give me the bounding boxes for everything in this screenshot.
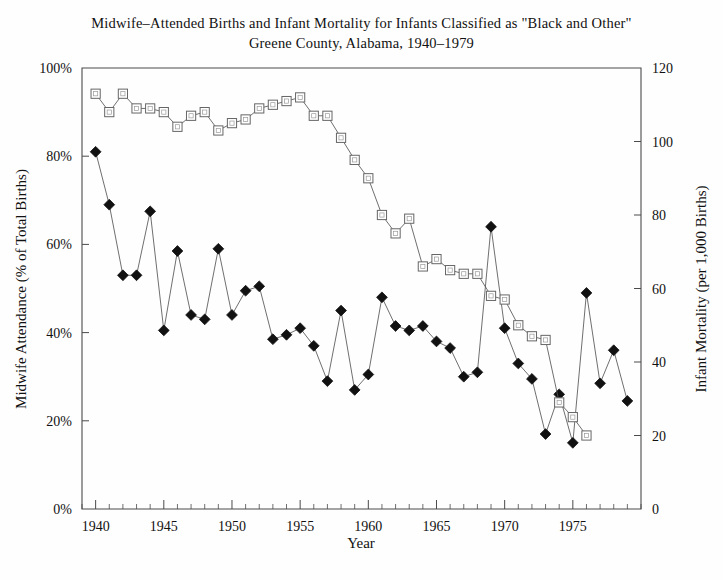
data-point-midwife: [172, 246, 183, 257]
y-right-tick-label: 40: [652, 355, 666, 370]
chart-plot-area: 0%20%40%60%80%100%0204060801001201940194…: [0, 0, 723, 580]
y-left-tick-label: 0%: [53, 502, 72, 517]
data-point-midwife: [199, 314, 210, 325]
data-point-midwife: [336, 305, 347, 316]
data-point-midwife: [227, 310, 238, 321]
data-point-midwife: [595, 378, 606, 389]
data-point-mortality: [377, 210, 386, 219]
chart-figure: Midwife–Attended Births and Infant Morta…: [0, 0, 723, 580]
plot-frame: [82, 68, 641, 509]
x-axis-tick-label: 1975: [559, 519, 587, 534]
data-point-midwife: [540, 429, 551, 440]
data-point-mortality: [350, 155, 359, 164]
data-point-mortality: [418, 262, 427, 271]
y-left-tick-label: 100%: [39, 61, 72, 76]
data-point-mortality: [405, 214, 414, 223]
data-point-mortality: [364, 174, 373, 183]
data-point-mortality: [336, 133, 345, 142]
data-point-midwife: [267, 334, 278, 345]
data-point-midwife: [308, 340, 319, 351]
data-point-mortality: [132, 104, 141, 113]
data-point-mortality: [459, 269, 468, 278]
data-point-mortality: [173, 122, 182, 131]
data-point-midwife: [608, 345, 619, 356]
data-point-mortality: [432, 255, 441, 264]
data-point-mortality: [255, 104, 264, 113]
x-axis-tick-label: 1940: [82, 519, 110, 534]
data-point-mortality: [309, 111, 318, 120]
y-left-tick-label: 80%: [46, 149, 72, 164]
data-point-mortality: [214, 126, 223, 135]
data-point-midwife: [213, 243, 224, 254]
data-point-mortality: [486, 291, 495, 300]
data-point-midwife: [104, 199, 115, 210]
y-left-tick-label: 40%: [46, 326, 72, 341]
x-axis-tick-label: 1950: [218, 519, 246, 534]
data-point-mortality: [568, 413, 577, 422]
x-axis-tick-label: 1955: [286, 519, 314, 534]
data-point-midwife: [622, 396, 633, 407]
data-point-midwife: [145, 206, 156, 217]
data-point-mortality: [500, 295, 509, 304]
data-point-mortality: [159, 108, 168, 117]
data-point-midwife: [322, 376, 333, 387]
y-right-tick-label: 120: [652, 61, 673, 76]
data-point-midwife: [281, 329, 292, 340]
data-point-midwife: [499, 323, 510, 334]
y-right-tick-label: 60: [652, 282, 666, 297]
data-point-midwife: [158, 325, 169, 336]
data-point-mortality: [227, 119, 236, 128]
y-right-tick-label: 0: [652, 502, 659, 517]
x-axis-tick-label: 1965: [422, 519, 450, 534]
data-point-midwife: [295, 323, 306, 334]
data-point-mortality: [282, 96, 291, 105]
data-point-mortality: [296, 93, 305, 102]
data-point-midwife: [445, 343, 456, 354]
data-point-mortality: [555, 398, 564, 407]
data-point-midwife: [131, 270, 142, 281]
y-right-tick-label: 100: [652, 135, 673, 150]
data-point-midwife: [377, 292, 388, 303]
y-right-tick-label: 20: [652, 429, 666, 444]
x-axis-tick-label: 1960: [354, 519, 382, 534]
x-axis-tick-label: 1945: [150, 519, 178, 534]
data-point-mortality: [582, 431, 591, 440]
data-point-mortality: [105, 108, 114, 117]
data-point-midwife: [472, 367, 483, 378]
data-point-mortality: [473, 269, 482, 278]
data-point-mortality: [146, 104, 155, 113]
data-point-midwife: [90, 146, 101, 157]
y-right-tick-label: 80: [652, 208, 666, 223]
data-point-mortality: [391, 229, 400, 238]
x-axis-tick-label: 1970: [491, 519, 519, 534]
data-point-mortality: [541, 335, 550, 344]
data-point-midwife: [486, 221, 497, 232]
data-point-midwife: [240, 285, 251, 296]
data-point-midwife: [567, 437, 578, 448]
data-point-midwife: [581, 288, 592, 299]
data-point-midwife: [118, 270, 129, 281]
data-point-mortality: [241, 115, 250, 124]
data-point-mortality: [514, 321, 523, 330]
data-point-midwife: [390, 321, 401, 332]
series-line-mortality: [96, 94, 587, 436]
data-point-mortality: [186, 111, 195, 120]
data-point-mortality: [323, 111, 332, 120]
data-point-mortality: [91, 89, 100, 98]
data-point-mortality: [527, 332, 536, 341]
data-point-mortality: [200, 108, 209, 117]
y-left-tick-label: 60%: [46, 237, 72, 252]
series-line-midwife: [96, 152, 628, 443]
data-point-midwife: [404, 325, 415, 336]
data-point-mortality: [268, 100, 277, 109]
data-point-midwife: [458, 371, 469, 382]
data-point-mortality: [446, 266, 455, 275]
data-point-midwife: [254, 281, 265, 292]
y-left-tick-label: 20%: [46, 414, 72, 429]
data-point-mortality: [118, 89, 127, 98]
data-point-midwife: [186, 310, 197, 321]
